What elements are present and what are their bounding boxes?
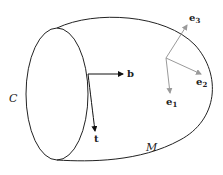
- b-label: b: [127, 69, 134, 79]
- t-label: t: [94, 134, 99, 144]
- manifold-surface-outline: [57, 17, 212, 161]
- e3-vector-arrow: [166, 25, 187, 58]
- e2-vector-arrow: [166, 58, 201, 74]
- e1-vector-arrow: [166, 58, 170, 93]
- manifold-diagram: [0, 0, 223, 175]
- boundary-curve-ellipse: [26, 28, 88, 160]
- manifold-label: M: [146, 142, 157, 153]
- curve-label: C: [9, 93, 17, 104]
- e1-label: e1: [166, 97, 177, 107]
- t-vector-arrow: [88, 74, 95, 131]
- e3-label: e3: [189, 13, 200, 23]
- e2-label: e2: [196, 77, 207, 87]
